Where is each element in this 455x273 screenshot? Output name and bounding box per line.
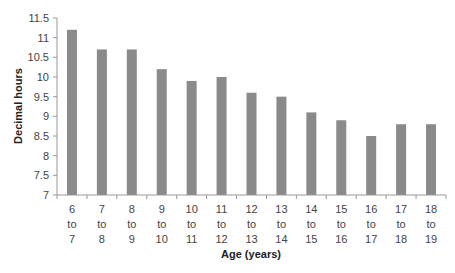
x-tick-label: 12 [245,203,257,215]
x-tick-label: 7 [99,203,105,215]
x-tick-label: to [97,218,106,230]
bar-chart: 77.588.599.51010.51111.5 6to77to88to99to… [0,0,455,273]
y-tick-label: 11.5 [28,12,49,24]
y-tick-label: 8 [43,150,49,162]
x-tick-label: 13 [275,203,287,215]
bar [366,136,376,195]
x-tick-label: 11 [186,233,197,245]
y-tick-label: 7.5 [34,169,49,181]
x-tick-label: 8 [99,233,105,245]
y-tick-label: 8.5 [34,130,49,142]
x-tick-label: 8 [129,203,135,215]
bar [247,93,257,195]
x-tick-label: 17 [365,233,377,245]
bar [426,124,436,195]
y-axis: 77.588.599.51010.51111.5 [28,12,57,201]
x-tick-label: 15 [335,203,347,215]
x-tick-label: 18 [395,233,407,245]
y-tick-label: 10.5 [28,51,49,63]
x-tick-label: 17 [395,203,407,215]
bar [67,30,77,195]
bar [97,49,107,195]
bar [127,49,137,195]
x-tick-label: to [367,218,376,230]
x-tick-label: to [307,218,316,230]
y-tick-label: 10 [37,71,49,83]
x-tick-label: 16 [365,203,377,215]
x-tick-label: 6 [69,203,75,215]
bar [306,112,316,195]
x-tick-label: to [157,218,166,230]
x-tick-label: 10 [156,233,168,245]
x-tick-label: 15 [305,233,317,245]
bar [157,69,167,195]
y-tick-label: 9.5 [34,91,49,103]
x-tick-label: 9 [159,203,165,215]
bar [396,124,406,195]
y-tick-label: 9 [43,110,49,122]
x-tick-label: to [277,218,286,230]
x-tick-label: 14 [305,203,317,215]
x-tick-label: 14 [275,233,287,245]
x-axis: 6to77to88to99to1010to1111to1212to1313to1… [57,195,446,245]
y-axis-title: Decimal hours [12,68,24,144]
x-tick-label: to [187,218,196,230]
y-tick-label: 7 [43,189,49,201]
x-tick-label: to [337,218,346,230]
x-tick-label: to [217,218,226,230]
bars [67,30,436,195]
x-tick-label: 10 [186,203,198,215]
x-tick-label: 11 [216,203,227,215]
bar [187,81,197,195]
x-tick-label: to [426,218,435,230]
x-tick-label: 18 [425,203,437,215]
x-tick-label: 19 [425,233,437,245]
x-tick-label: to [247,218,256,230]
bar [276,97,286,195]
x-tick-label: to [397,218,406,230]
x-tick-label: 13 [245,233,257,245]
bar [336,120,346,195]
x-axis-title: Age (years) [221,248,281,260]
x-tick-label: 9 [129,233,135,245]
y-tick-label: 11 [38,32,49,44]
x-tick-label: to [67,218,76,230]
x-tick-label: to [127,218,136,230]
bar [217,77,227,195]
x-tick-label: 12 [215,233,227,245]
x-tick-label: 7 [69,233,75,245]
x-tick-label: 16 [335,233,347,245]
